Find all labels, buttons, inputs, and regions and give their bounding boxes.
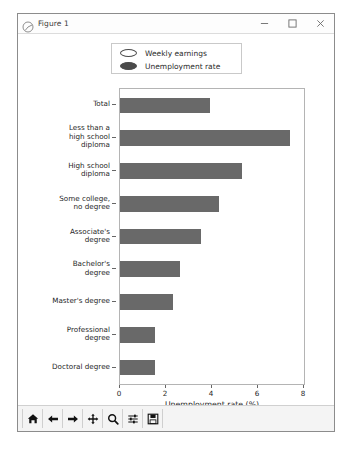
sliders-icon[interactable] <box>123 409 143 428</box>
y-axis-tick-label: Bachelor's degree <box>73 260 110 277</box>
bar <box>120 229 201 245</box>
home-icon[interactable] <box>22 409 43 428</box>
navigation-toolbar <box>18 405 334 431</box>
y-axis-tick-label: Less than a high school diploma <box>69 125 110 150</box>
floppy-disk-icon[interactable] <box>143 409 163 428</box>
bar <box>120 130 290 146</box>
legend-swatch-unemployment-rate <box>120 62 137 70</box>
legend-label-unemployment-rate: Unemployment rate <box>145 62 220 71</box>
bars-layer <box>120 89 304 384</box>
y-axis-tick-mark <box>112 367 116 368</box>
x-axis-tick-mark <box>165 385 166 388</box>
bar <box>120 327 155 343</box>
bar <box>120 294 173 310</box>
x-axis-tick-mark <box>303 385 304 388</box>
move-cross-icon[interactable] <box>83 409 103 428</box>
x-axis: 02468 <box>119 385 305 399</box>
y-axis-tick-mark <box>112 203 116 204</box>
legend-item-weekly-earnings: Weekly earnings <box>120 47 241 59</box>
figure-window: Figure 1 Weekly earnings Unemployment ra… <box>17 13 335 432</box>
arrow-left-icon[interactable] <box>43 409 63 428</box>
legend-swatch-weekly-earnings <box>120 49 137 57</box>
x-axis-tick-label: 4 <box>209 389 214 398</box>
y-axis-tick-mark <box>112 104 116 105</box>
y-axis-tick-label: Professional degree <box>67 325 110 342</box>
x-axis-tick-label: 0 <box>117 389 122 398</box>
y-axis-tick-label: High school diploma <box>68 162 110 179</box>
legend-item-unemployment-rate: Unemployment rate <box>120 60 241 72</box>
y-axis-tick-mark <box>112 301 116 302</box>
legend-label-weekly-earnings: Weekly earnings <box>145 49 207 58</box>
x-axis-tick-label: 2 <box>163 389 168 398</box>
minimize-button[interactable] <box>250 14 278 33</box>
y-axis-tick-label: Doctoral degree <box>52 362 110 370</box>
y-axis-tick-label: Some college, no degree <box>59 194 110 211</box>
bar <box>120 98 210 114</box>
y-axis-tick-labels: TotalLess than a high school diplomaHigh… <box>18 88 116 385</box>
y-axis-tick-label: Associate's degree <box>70 227 110 244</box>
x-axis-tick-label: 6 <box>255 389 260 398</box>
magnifier-icon[interactable] <box>103 409 123 428</box>
y-axis-tick-mark <box>112 268 116 269</box>
x-axis-tick-label: 8 <box>301 389 306 398</box>
y-axis-tick-mark <box>112 236 116 237</box>
maximize-button[interactable] <box>278 14 306 33</box>
chart-legend: Weekly earnings Unemployment rate <box>111 43 242 74</box>
arrow-right-icon[interactable] <box>63 409 83 428</box>
bar <box>120 261 180 277</box>
y-axis-tick-mark <box>112 334 116 335</box>
y-axis-tick-mark <box>112 137 116 138</box>
figure-canvas[interactable]: Weekly earnings Unemployment rate TotalL… <box>18 34 334 405</box>
plot-axes <box>119 88 305 385</box>
x-axis-title: Unemployment rate (%) <box>119 400 305 405</box>
window-controls <box>250 14 334 33</box>
x-axis-tick-mark <box>257 385 258 388</box>
y-axis-tick-label: Master's degree <box>52 297 110 305</box>
matplotlib-figure-icon <box>22 18 34 30</box>
bar <box>120 196 219 212</box>
x-axis-tick-mark <box>119 385 120 388</box>
y-axis-tick-label: Total <box>93 100 110 108</box>
bar <box>120 360 155 376</box>
close-button[interactable] <box>306 14 334 33</box>
title-bar: Figure 1 <box>18 14 334 34</box>
window-title: Figure 1 <box>38 19 69 28</box>
x-axis-tick-mark <box>211 385 212 388</box>
y-axis-tick-mark <box>112 170 116 171</box>
bar <box>120 163 242 179</box>
